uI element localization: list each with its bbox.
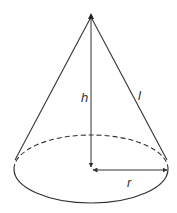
radius-label: r [127,175,132,190]
cone-right-side-slant [91,17,167,160]
cone-left-side [15,17,91,160]
slant-height-label: l [138,88,142,103]
cone-diagram: h l r [0,0,177,213]
apex-point [88,13,94,19]
height-label: h [81,90,88,105]
base-ellipse-front [14,169,168,203]
